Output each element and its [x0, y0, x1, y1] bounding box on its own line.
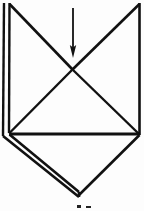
left-outer-vertical-line	[3, 3, 4, 136]
figure-container	[0, 0, 144, 211]
figure-background	[0, 0, 144, 211]
caption-fragment-right	[86, 206, 91, 208]
origami-fold-diagram	[0, 0, 144, 211]
caption-fragment-left	[77, 205, 81, 208]
left-inner-vertical-line	[9, 3, 10, 133]
